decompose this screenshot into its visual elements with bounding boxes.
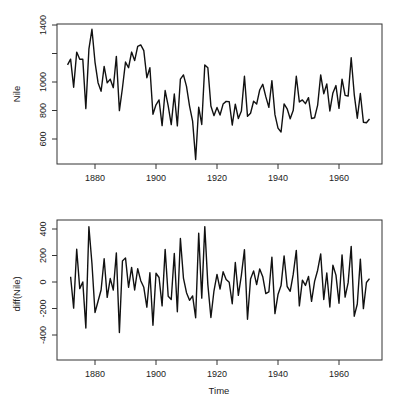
y-tick-label: 200 <box>38 248 48 263</box>
x-tick-label: 1940 <box>268 173 288 183</box>
x-tick-label: 1960 <box>329 173 349 183</box>
x-tick-label: 1880 <box>85 173 105 183</box>
bottom-y-axis-label: diff(Nile) <box>11 276 22 311</box>
figure: 18801900192019401960 60080010001400 Nile… <box>0 0 399 409</box>
x-tick-label: 1900 <box>146 369 166 379</box>
y-tick-label: 0 <box>38 279 48 284</box>
y-tick-label: 600 <box>38 131 48 146</box>
x-tick-label: 1920 <box>207 173 227 183</box>
y-tick-label: -400 <box>38 326 48 344</box>
x-tick-label: 1940 <box>268 369 288 379</box>
bottom-x-axis: 18801900192019401960 <box>85 360 349 379</box>
bottom-y-axis: -400-2000200400 <box>38 221 57 344</box>
top-y-axis-label: Nile <box>11 86 22 102</box>
top-y-axis: 60080010001400 <box>38 15 57 147</box>
bottom-plot-frame <box>57 220 382 360</box>
nile-series-line <box>68 29 370 159</box>
y-tick-label: 800 <box>38 103 48 118</box>
bottom-panel: 18801900192019401960 -400-2000200400 dif… <box>11 220 382 396</box>
diff-nile-series-line <box>71 227 370 333</box>
top-panel: 18801900192019401960 60080010001400 Nile <box>11 15 382 183</box>
y-tick-label: -200 <box>38 299 48 317</box>
top-x-axis: 18801900192019401960 <box>85 164 349 183</box>
bottom-x-axis-label: Time <box>209 385 230 396</box>
y-tick-label: 400 <box>38 221 48 236</box>
y-tick-label: 1400 <box>38 15 48 35</box>
x-tick-label: 1900 <box>146 173 166 183</box>
x-tick-label: 1920 <box>207 369 227 379</box>
y-tick-label: 1000 <box>38 72 48 92</box>
x-tick-label: 1880 <box>85 369 105 379</box>
x-tick-label: 1960 <box>329 369 349 379</box>
